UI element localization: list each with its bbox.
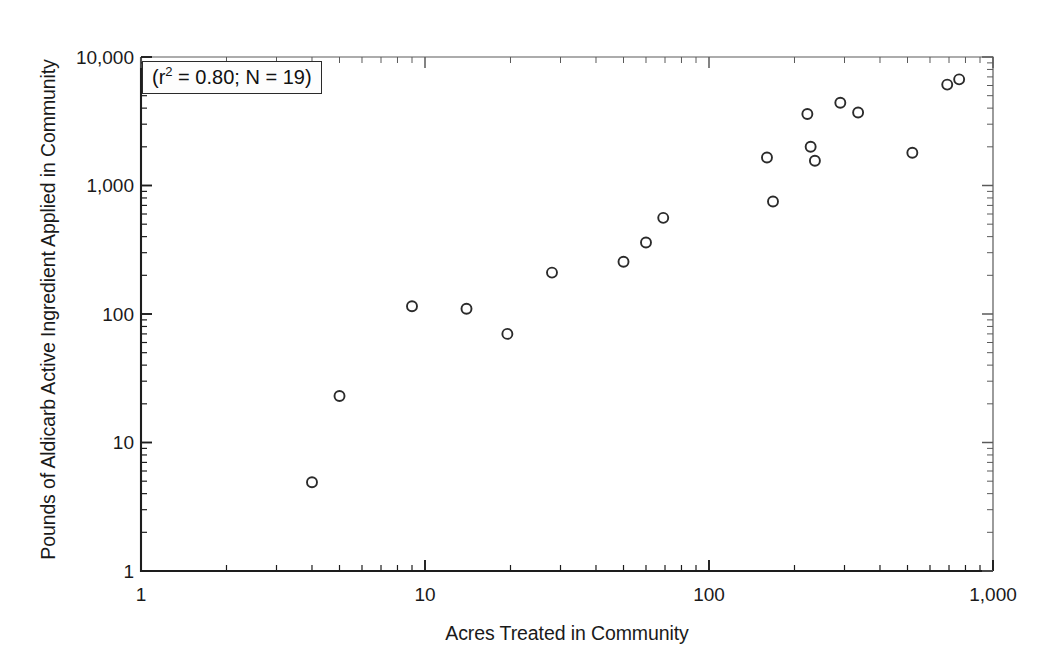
r-squared-annotation: (r2 = 0.80; N = 19) [142,61,322,94]
x-tick-label: 10 [365,585,485,604]
scatter-plot-figure: Pounds of Aldicarb Active Ingredient App… [0,0,1040,658]
x-tick-label: 100 [649,585,769,604]
annotation-prefix: (r [152,66,165,88]
x-tick-label: 1 [81,585,201,604]
x-tick-label: 1,000 [933,585,1040,604]
annotation-superscript: 2 [165,64,172,79]
annotation-suffix: = 0.80; N = 19) [173,66,312,88]
x-axis-tick-labels: 1101001,000 [0,0,1040,658]
